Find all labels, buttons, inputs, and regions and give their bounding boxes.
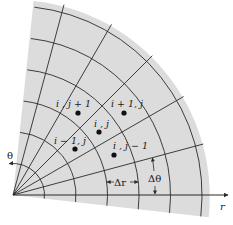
- theta-label: θ: [7, 150, 13, 161]
- node-iplus1-j: [121, 110, 126, 115]
- delta-theta-label: Δθ: [148, 173, 161, 184]
- node-iminus1-j: [72, 146, 77, 151]
- node-i-j: [96, 129, 101, 134]
- node-label-i-j: i , j: [94, 118, 109, 129]
- node-label-iminus1-j: i − 1, j: [54, 135, 86, 146]
- node-label-iplus1-j: i + 1, j: [111, 98, 143, 109]
- node-label-i-jplus1: i , j + 1: [56, 98, 91, 109]
- r-axis-label: r: [220, 201, 226, 212]
- node-i-jminus1: [111, 152, 116, 157]
- node-label-i-jminus1: i , j − 1: [113, 140, 148, 151]
- polar-grid-diagram: r θ Δr Δθ i , j + 1 i + 1, j i , j i − 1…: [0, 0, 233, 225]
- delta-r-label: Δr: [114, 177, 126, 188]
- node-i-jplus1: [75, 110, 80, 115]
